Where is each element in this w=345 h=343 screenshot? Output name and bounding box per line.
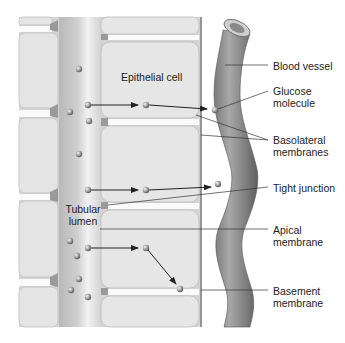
callout-text: Apical [273,224,323,236]
glucose-molecule [143,187,149,193]
blood-vessel [214,30,258,327]
glucose-molecule [143,245,149,251]
callout-text: molecule [273,97,315,109]
glucose-molecule [67,238,73,244]
callout-basolateral-membranes: Basolateral membranes [273,134,328,158]
callout-apical-membrane: Apical membrane [273,224,323,248]
callout-blood-vessel: Blood vessel [273,60,333,72]
glucose-molecule [177,286,183,292]
tubular-lumen-label-line2: lumen [62,215,104,227]
glucose-molecule [143,102,149,108]
glucose-molecule [74,253,80,259]
callout-text: Glucose [273,85,315,97]
glucose-molecule [76,151,82,157]
glucose-molecule [212,107,218,113]
callout-text: membranes [273,146,328,158]
tubular-lumen-label-line1: Tubular [62,203,104,215]
glucose-molecule [76,66,82,72]
glucose-molecule [85,294,91,300]
glucose-molecule [215,181,221,187]
glucose-molecule [68,287,74,293]
callout-text: membrane [273,297,323,309]
callout-text: Basolateral [273,134,328,146]
glucose-molecule [85,187,91,193]
tubular-lumen-label: Tubular lumen [62,203,104,227]
callout-tight-junction: Tight junction [273,182,335,194]
glucose-molecule [67,109,73,115]
callout-text: Basement [273,285,323,297]
glucose-molecule [85,245,91,251]
callout-text: Blood vessel [273,60,333,72]
glucose-molecule [85,102,91,108]
epithelial-cell-label: Epithelial cell [121,71,182,83]
glucose-molecule [86,118,92,124]
callout-glucose-molecule: Glucose molecule [273,85,315,109]
callout-text: membrane [273,236,323,248]
glucose-molecule [76,276,82,282]
callout-text: Tight junction [273,182,335,194]
right-epithelial-cells [101,17,199,327]
callout-basement-membrane: Basement membrane [273,285,323,309]
